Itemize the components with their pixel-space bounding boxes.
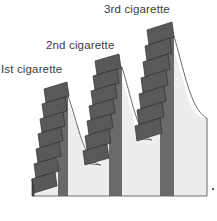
- label-first-cigarette: Ist cigarette: [1, 64, 62, 76]
- figure-root: Ist cigarette 2nd cigarette 3rd cigarett…: [0, 0, 217, 221]
- accumulation-diagram: [0, 0, 217, 221]
- label-second-cigarette: 2nd cigarette: [46, 40, 114, 52]
- label-third-cigarette: 3rd cigarette: [104, 4, 170, 16]
- right-tick-mark: [212, 188, 214, 190]
